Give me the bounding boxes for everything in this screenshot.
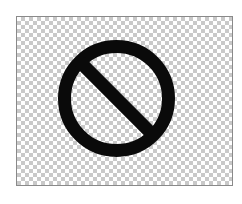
prohibited-slash	[80, 62, 154, 136]
prohibited-icon	[0, 0, 242, 204]
